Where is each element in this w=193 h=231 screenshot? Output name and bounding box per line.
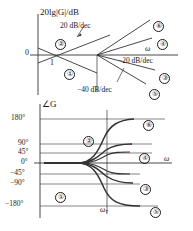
phase-y-tick-0: 0° [21,158,28,166]
phase-y-tick-neg90: −90° [10,179,25,187]
phase-curve-label-1: ① [55,186,66,203]
circled-number-4: ④ [157,39,168,50]
magnitude-x-axis-label: ω [145,45,150,53]
corner-frequency-label: ωT [100,206,108,214]
magnitude-y-axis-label: 20lg|G|/dB [40,8,79,17]
magnitude-curve-label-1: ① [64,63,75,80]
phase-y-tick-neg45: −45° [10,169,25,177]
magnitude-curve-label-4: ④ [157,33,168,50]
magnitude-curve-label-5: ⑤ [149,83,160,100]
slope-annotation-neg20: −20 dB/dec [118,57,153,65]
phase-y-tick-90: 90° [18,139,29,147]
circled-number-2: ② [83,136,94,147]
magnitude-y-tick-0: 0 [25,49,29,57]
magnitude-curve-4 [97,38,152,55]
circled-number-1: ① [55,192,66,203]
phase-curve-label-4: ④ [139,147,150,164]
magnitude-curve-label-3: ③ [159,67,170,84]
circled-number-2: ② [55,39,66,50]
phase-x-axis-label: ω [164,155,169,163]
phase-curve-label-2: ② [83,130,94,147]
phase-y-axis-label: ∠G [42,100,57,109]
phase-y-tick-45: 45° [18,148,29,156]
circled-number-4: ④ [139,153,150,164]
phase-y-tick-neg180: −180° [5,200,23,208]
slope-annotation-neg40: −40 dB/dec [77,86,112,94]
phase-curve-label-5: ⑤ [150,201,161,218]
circled-number-5: ⑤ [150,207,161,218]
bode-plot-figure: 20lg|G|/dB 20 dB/dec −20 dB/dec −40 dB/d… [0,0,193,231]
slope-annotation-pos20: 20 dB/dec [60,22,91,30]
circled-number-6: ⑥ [153,21,164,32]
circled-number-5: ⑤ [149,89,160,100]
phase-curve-label-6: ⑥ [143,114,154,131]
circled-number-6: ⑥ [143,120,154,131]
magnitude-curve-6 [97,20,150,55]
phase-curve-label-3: ③ [140,178,151,195]
magnitude-x-tick-1: 1 [50,59,54,67]
magnitude-curve-label-6: ⑥ [153,15,164,32]
phase-y-tick-180: 180° [11,114,25,122]
circled-number-1: ① [64,69,75,80]
magnitude-curve-2 [38,35,110,63]
circled-number-3: ③ [140,184,151,195]
circled-number-3: ③ [159,73,170,84]
magnitude-curve-label-2: ② [55,33,66,50]
corner-frequency-subscript: T [105,209,108,214]
slope-neg40-leader [117,68,124,82]
